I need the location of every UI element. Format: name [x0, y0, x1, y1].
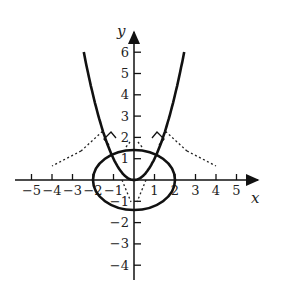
- y-tick-label: 4: [121, 87, 129, 102]
- y-tick-label: 5: [121, 66, 129, 81]
- y-tick-label: 6: [121, 45, 129, 60]
- x-tick-label: 5: [232, 183, 240, 198]
- y-tick-label: 1: [121, 151, 129, 166]
- x-tick-label: 3: [191, 183, 199, 198]
- x-tick-label: −5: [22, 183, 41, 198]
- orthogonal-curves-diagram: −5−4−3−2−112345 654321−1−2−3−4 x y: [0, 0, 283, 281]
- x-axis-label: x: [251, 189, 260, 207]
- y-tick-label: 2: [121, 130, 129, 145]
- x-tick-label: 1: [150, 183, 158, 198]
- y-tick-label: 3: [121, 109, 129, 124]
- y-tick-label: −2: [110, 215, 129, 230]
- x-ticks: −5−4−3−2−112345: [22, 174, 241, 198]
- y-tick-label: −4: [110, 258, 129, 273]
- x-tick-label: 4: [212, 183, 220, 198]
- y-axis-label: y: [116, 22, 126, 40]
- x-tick-label: −4: [42, 183, 61, 198]
- x-tick-label: −3: [63, 183, 82, 198]
- y-tick-label: −3: [110, 236, 129, 251]
